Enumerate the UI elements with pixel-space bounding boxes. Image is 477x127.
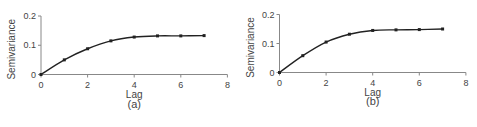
data-point bbox=[278, 71, 281, 74]
series-line bbox=[280, 29, 443, 73]
data-point bbox=[371, 29, 374, 32]
y-tick-label: 0.2 bbox=[23, 11, 36, 21]
y-tick-label: 0 bbox=[269, 68, 274, 78]
y-tick-label: 0 bbox=[31, 70, 36, 80]
chart-caption: (a) bbox=[127, 98, 140, 110]
y-tick-label: 0.1 bbox=[262, 39, 275, 49]
x-tick-label: 8 bbox=[463, 78, 468, 88]
y-axis-label: Semivariance bbox=[6, 19, 17, 80]
data-point bbox=[301, 54, 304, 57]
x-tick-label: 6 bbox=[417, 78, 422, 88]
chart-b: 00.10.202468LagSemivariance(b) bbox=[238, 0, 477, 127]
data-point bbox=[418, 28, 421, 31]
x-tick-label: 0 bbox=[38, 80, 43, 90]
y-tick-label: 0.2 bbox=[262, 10, 275, 20]
data-point bbox=[395, 28, 398, 31]
data-point bbox=[156, 34, 159, 37]
data-point bbox=[348, 33, 351, 36]
y-axis-label: Semivariance bbox=[245, 17, 256, 78]
x-tick-label: 2 bbox=[85, 80, 90, 90]
data-point bbox=[179, 34, 182, 37]
data-point bbox=[86, 47, 89, 50]
data-point bbox=[109, 39, 112, 42]
y-tick-label: 0.1 bbox=[23, 40, 36, 50]
data-point bbox=[441, 28, 444, 31]
data-point bbox=[63, 58, 66, 61]
series-line bbox=[41, 36, 204, 75]
data-point bbox=[133, 36, 136, 39]
x-tick-label: 6 bbox=[178, 80, 183, 90]
x-tick-label: 8 bbox=[225, 80, 230, 90]
x-tick-label: 2 bbox=[324, 78, 329, 88]
data-point bbox=[203, 34, 206, 37]
chart-a: 00.10.202468LagSemivariance(a) bbox=[0, 0, 238, 127]
data-point bbox=[325, 41, 328, 44]
chart-caption: (b) bbox=[366, 95, 379, 107]
x-tick-label: 0 bbox=[277, 78, 282, 88]
data-point bbox=[40, 73, 43, 76]
